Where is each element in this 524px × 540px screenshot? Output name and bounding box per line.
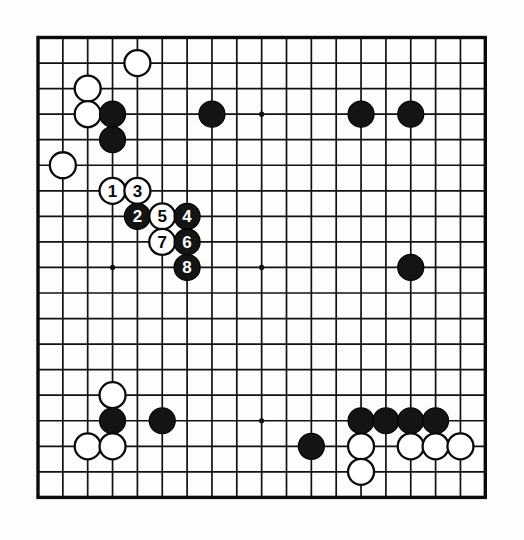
black-stone-body (373, 408, 399, 434)
black-stone-body (100, 408, 126, 434)
black-stone-body (298, 433, 324, 459)
black-stone-body (348, 101, 374, 127)
move-stone-2[interactable]: 2 (124, 203, 150, 229)
stone-black[interactable] (348, 408, 374, 434)
white-stone-body (423, 433, 449, 459)
stone-black[interactable] (373, 408, 399, 434)
black-stone-body (174, 203, 200, 229)
white-stone-body (124, 50, 150, 76)
move-stone-8[interactable]: 8 (174, 254, 200, 280)
white-stone-body (348, 459, 374, 485)
white-stone-body (149, 229, 175, 255)
stone-white[interactable] (75, 433, 101, 459)
white-stone-body (100, 178, 126, 204)
stone-white[interactable] (75, 76, 101, 102)
black-stone-body (398, 254, 424, 280)
star-point (110, 265, 115, 270)
move-stone-4[interactable]: 4 (174, 203, 200, 229)
stone-black[interactable] (398, 101, 424, 127)
stone-black[interactable] (398, 408, 424, 434)
stone-white[interactable] (75, 101, 101, 127)
stone-black[interactable] (100, 408, 126, 434)
black-stone-body (199, 101, 225, 127)
black-stone-body (423, 408, 449, 434)
go-board[interactable]: 13254768 (0, 0, 524, 540)
white-stone-body (100, 382, 126, 408)
white-stone-body (124, 178, 150, 204)
stone-white[interactable] (348, 459, 374, 485)
stone-white[interactable] (50, 152, 76, 178)
move-stone-7[interactable]: 7 (149, 229, 175, 255)
star-point (259, 418, 264, 423)
white-stone-body (348, 433, 374, 459)
move-stone-6[interactable]: 6 (174, 229, 200, 255)
black-stone-body (124, 203, 150, 229)
stone-black[interactable] (149, 408, 175, 434)
black-stone-body (398, 101, 424, 127)
white-stone-body (447, 433, 473, 459)
black-stone-body (398, 408, 424, 434)
stone-white[interactable] (100, 382, 126, 408)
black-stone-body (174, 229, 200, 255)
white-stone-body (149, 203, 175, 229)
white-stone-body (75, 76, 101, 102)
star-point (259, 112, 264, 117)
stone-white[interactable] (447, 433, 473, 459)
go-diagram-page: 13254768 (0, 0, 524, 540)
stone-white[interactable] (124, 50, 150, 76)
move-stone-5[interactable]: 5 (149, 203, 175, 229)
white-stone-body (75, 101, 101, 127)
black-stone-body (149, 408, 175, 434)
stone-white[interactable] (423, 433, 449, 459)
stone-white[interactable] (100, 433, 126, 459)
stone-black[interactable] (100, 101, 126, 127)
stone-white[interactable] (348, 433, 374, 459)
black-stone-body (100, 127, 126, 153)
black-stone-body (100, 101, 126, 127)
white-stone-body (398, 433, 424, 459)
stone-black[interactable] (100, 127, 126, 153)
white-stone-body (75, 433, 101, 459)
stone-black[interactable] (348, 101, 374, 127)
black-stone-body (348, 408, 374, 434)
stone-white[interactable] (398, 433, 424, 459)
stone-black[interactable] (199, 101, 225, 127)
move-stone-3[interactable]: 3 (124, 178, 150, 204)
move-stone-1[interactable]: 1 (100, 178, 126, 204)
white-stone-body (50, 152, 76, 178)
black-stone-body (174, 254, 200, 280)
stone-black[interactable] (423, 408, 449, 434)
star-point (259, 265, 264, 270)
goban-svg[interactable]: 13254768 (0, 0, 524, 540)
white-stone-body (100, 433, 126, 459)
stone-black[interactable] (298, 433, 324, 459)
stone-black[interactable] (398, 254, 424, 280)
